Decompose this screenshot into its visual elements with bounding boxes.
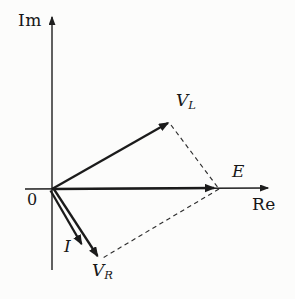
im-axis-label: Im — [18, 12, 42, 29]
vector-vl — [52, 123, 168, 189]
dash-vl-to-corner — [171, 125, 219, 189]
vl-subscript: L — [188, 98, 196, 112]
origin-label: 0 — [27, 192, 37, 208]
vector-vl-label: VL — [176, 92, 196, 109]
vector-i-label: I — [64, 238, 71, 255]
vl-symbol: V — [176, 90, 188, 110]
vr-subscript: R — [104, 268, 113, 282]
vector-vr — [54, 189, 98, 257]
re-axis-label: Re — [252, 196, 276, 213]
dash-corner-to-vr — [101, 189, 219, 259]
vector-e — [52, 188, 214, 189]
phasor-diagram-figure: Im Re 0 VL E I VR — [0, 0, 295, 299]
i-symbol: I — [64, 236, 71, 256]
vr-symbol: V — [92, 260, 104, 280]
vector-vr-label: VR — [92, 262, 113, 279]
vector-e-label: E — [232, 163, 244, 180]
phasor-svg — [0, 0, 295, 299]
e-symbol: E — [232, 161, 244, 181]
